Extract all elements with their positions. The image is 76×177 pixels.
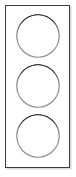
- lamp-ring-stroke-left: [17, 14, 38, 43]
- lamp-bottom[interactable]: [14, 112, 62, 160]
- lamp-ring-stroke-right: [38, 114, 59, 143]
- traffic-light-illustration: Traffic light with three unlit circular …: [0, 0, 76, 177]
- lamp-ring-stroke-right: [38, 64, 59, 93]
- lamp-top[interactable]: [14, 12, 62, 60]
- lamp-ring-stroke-left: [17, 64, 38, 93]
- lamp-ring-stroke-right: [38, 14, 59, 43]
- lamp-middle[interactable]: [14, 62, 62, 110]
- lamp-stack: [0, 0, 76, 177]
- lamp-ring-stroke-left: [17, 114, 38, 143]
